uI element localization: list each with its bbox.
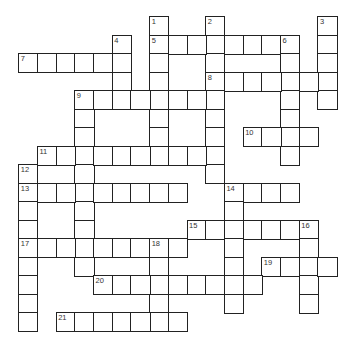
grid-cell[interactable]: 17 <box>18 238 38 258</box>
grid-cell[interactable]: 7 <box>18 53 38 73</box>
grid-cell[interactable]: 14 <box>224 183 244 203</box>
grid-cell[interactable] <box>37 183 57 203</box>
grid-cell[interactable] <box>243 72 263 92</box>
grid-cell[interactable] <box>224 294 244 314</box>
grid-cell[interactable] <box>18 294 38 314</box>
grid-cell[interactable] <box>74 238 94 258</box>
grid-cell[interactable] <box>149 90 169 110</box>
grid-cell[interactable] <box>205 164 225 184</box>
grid-cell[interactable] <box>18 220 38 240</box>
grid-cell[interactable] <box>130 183 150 203</box>
grid-cell[interactable]: 11 <box>37 146 57 166</box>
grid-cell[interactable] <box>261 220 281 240</box>
grid-cell[interactable] <box>37 238 57 258</box>
grid-cell[interactable]: 3 <box>317 16 337 36</box>
grid-cell[interactable] <box>299 257 319 277</box>
grid-cell[interactable] <box>280 257 300 277</box>
grid-cell[interactable] <box>112 72 132 92</box>
grid-cell[interactable] <box>74 201 94 221</box>
grid-cell[interactable] <box>56 146 76 166</box>
grid-cell[interactable] <box>261 183 281 203</box>
grid-cell[interactable] <box>168 35 188 55</box>
grid-cell[interactable] <box>224 257 244 277</box>
grid-cell[interactable] <box>299 127 319 147</box>
grid-cell[interactable] <box>112 238 132 258</box>
grid-cell[interactable] <box>149 72 169 92</box>
grid-cell[interactable] <box>112 275 132 295</box>
grid-cell[interactable] <box>112 146 132 166</box>
grid-cell[interactable] <box>74 220 94 240</box>
grid-cell[interactable] <box>299 294 319 314</box>
grid-cell[interactable] <box>187 90 207 110</box>
grid-cell[interactable] <box>112 53 132 73</box>
grid-cell[interactable] <box>74 164 94 184</box>
grid-cell[interactable]: 6 <box>280 35 300 55</box>
grid-cell[interactable] <box>168 146 188 166</box>
grid-cell[interactable] <box>280 109 300 129</box>
grid-cell[interactable] <box>74 127 94 147</box>
grid-cell[interactable] <box>168 238 188 258</box>
grid-cell[interactable] <box>205 53 225 73</box>
grid-cell[interactable]: 21 <box>56 312 76 332</box>
grid-cell[interactable] <box>280 90 300 110</box>
grid-cell[interactable] <box>112 312 132 332</box>
grid-cell[interactable]: 2 <box>205 16 225 36</box>
grid-cell[interactable] <box>130 312 150 332</box>
grid-cell[interactable] <box>224 72 244 92</box>
grid-cell[interactable] <box>56 238 76 258</box>
grid-cell[interactable] <box>74 109 94 129</box>
grid-cell[interactable] <box>18 201 38 221</box>
grid-cell[interactable] <box>205 146 225 166</box>
grid-cell[interactable] <box>149 127 169 147</box>
grid-cell[interactable] <box>168 275 188 295</box>
grid-cell[interactable] <box>149 257 169 277</box>
grid-cell[interactable] <box>224 35 244 55</box>
grid-cell[interactable] <box>130 146 150 166</box>
grid-cell[interactable]: 5 <box>149 35 169 55</box>
grid-cell[interactable] <box>317 90 337 110</box>
grid-cell[interactable]: 15 <box>187 220 207 240</box>
grid-cell[interactable]: 12 <box>18 164 38 184</box>
grid-cell[interactable] <box>56 183 76 203</box>
grid-cell[interactable]: 4 <box>112 35 132 55</box>
grid-cell[interactable]: 8 <box>205 72 225 92</box>
grid-cell[interactable] <box>243 220 263 240</box>
grid-cell[interactable] <box>149 312 169 332</box>
grid-cell[interactable] <box>299 238 319 258</box>
grid-cell[interactable] <box>317 35 337 55</box>
grid-cell[interactable]: 20 <box>93 275 113 295</box>
grid-cell[interactable] <box>149 275 169 295</box>
grid-cell[interactable] <box>149 109 169 129</box>
grid-cell[interactable] <box>261 35 281 55</box>
grid-cell[interactable] <box>93 146 113 166</box>
grid-cell[interactable] <box>130 238 150 258</box>
grid-cell[interactable]: 16 <box>299 220 319 240</box>
grid-cell[interactable]: 18 <box>149 238 169 258</box>
grid-cell[interactable] <box>74 312 94 332</box>
grid-cell[interactable] <box>18 275 38 295</box>
grid-cell[interactable] <box>317 72 337 92</box>
grid-cell[interactable]: 19 <box>261 257 281 277</box>
grid-cell[interactable] <box>224 275 244 295</box>
grid-cell[interactable] <box>299 275 319 295</box>
grid-cell[interactable]: 1 <box>149 16 169 36</box>
grid-cell[interactable] <box>18 312 38 332</box>
grid-cell[interactable] <box>224 201 244 221</box>
grid-cell[interactable] <box>224 238 244 258</box>
grid-cell[interactable] <box>93 312 113 332</box>
grid-cell[interactable] <box>205 127 225 147</box>
grid-cell[interactable] <box>168 90 188 110</box>
grid-cell[interactable] <box>168 312 188 332</box>
grid-cell[interactable] <box>149 183 169 203</box>
grid-cell[interactable] <box>261 72 281 92</box>
grid-cell[interactable] <box>187 275 207 295</box>
grid-cell[interactable] <box>112 90 132 110</box>
grid-cell[interactable] <box>18 257 38 277</box>
grid-cell[interactable] <box>205 109 225 129</box>
grid-cell[interactable] <box>243 35 263 55</box>
grid-cell[interactable] <box>56 53 76 73</box>
grid-cell[interactable] <box>187 146 207 166</box>
grid-cell[interactable] <box>224 220 244 240</box>
grid-cell[interactable] <box>93 90 113 110</box>
grid-cell[interactable] <box>280 146 300 166</box>
